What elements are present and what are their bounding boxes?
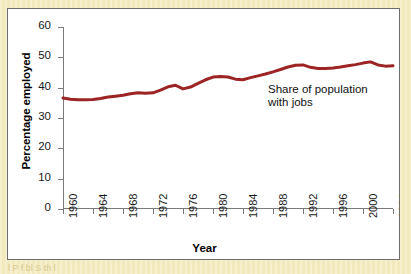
series-annotation: Share of population with jobs (268, 83, 368, 109)
data-series-line (63, 27, 393, 209)
y-axis-title: Percentage employed (20, 41, 32, 181)
x-tick-1988 (273, 209, 274, 214)
page-bleed-text: l P f bl S th l (8, 263, 308, 273)
x-tick-2000 (363, 209, 364, 214)
x-tick-1964 (93, 209, 94, 214)
y-tick-label-40: 40 (38, 80, 51, 92)
x-tick-1960 (63, 209, 64, 214)
x-tick-1976 (183, 209, 184, 214)
chart-frame: Percentage employed 0102030405060 196019… (7, 8, 400, 260)
y-tick-label-0: 0 (45, 201, 51, 213)
y-tick-label-30: 30 (38, 110, 51, 122)
series-annotation-line-1: Share of population (268, 83, 368, 96)
x-tick-1984 (243, 209, 244, 214)
x-tick-1980 (213, 209, 214, 214)
y-tick-label-50: 50 (38, 49, 51, 61)
x-tick-label-2004: 2004 (397, 194, 400, 218)
y-tick-label-10: 10 (38, 171, 51, 183)
x-tick-1996 (333, 209, 334, 214)
x-tick-1968 (123, 209, 124, 214)
x-axis-title: Year (8, 242, 400, 254)
y-tick-label-60: 60 (38, 19, 51, 31)
x-tick-2004 (393, 209, 394, 214)
y-tick-label-20: 20 (38, 140, 51, 152)
x-tick-1992 (303, 209, 304, 214)
x-tick-1972 (153, 209, 154, 214)
chart-figure: Percentage employed 0102030405060 196019… (0, 0, 411, 274)
series-annotation-line-2: with jobs (268, 96, 368, 109)
plot-area: 0102030405060 19601964196819721976198019… (63, 27, 393, 209)
